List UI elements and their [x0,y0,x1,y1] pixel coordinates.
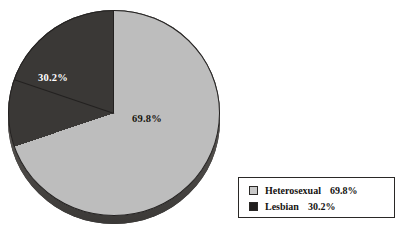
legend: Heterosexual 69.8% Lesbian 30.2% [238,177,395,218]
pie-slice-divider-top [113,10,114,113]
legend-value-heterosexual: 69.8% [330,185,358,196]
legend-swatch-heterosexual-icon [249,186,258,195]
legend-label-heterosexual: Heterosexual [265,185,321,196]
legend-item-heterosexual[interactable]: Heterosexual 69.8% [249,182,394,198]
pie-chart-figure: 30.2% 69.8% Heterosexual 69.8% Lesbian 3… [0,0,403,233]
legend-swatch-lesbian-icon [249,202,258,211]
legend-value-lesbian: 30.2% [308,201,336,212]
legend-label-lesbian: Lesbian [265,201,299,212]
legend-item-lesbian[interactable]: Lesbian 30.2% [249,198,394,214]
pie-surface [8,10,220,216]
pie-chart: 30.2% 69.8% [8,10,222,224]
pie-data-label-lesbian: 30.2% [38,72,68,83]
pie-data-label-heterosexual: 69.8% [132,113,162,124]
